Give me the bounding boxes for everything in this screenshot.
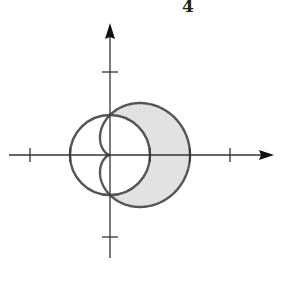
y-axis-arrow-icon <box>105 23 115 39</box>
x-axis-arrow-icon <box>259 150 274 160</box>
polar-plot <box>0 0 288 283</box>
